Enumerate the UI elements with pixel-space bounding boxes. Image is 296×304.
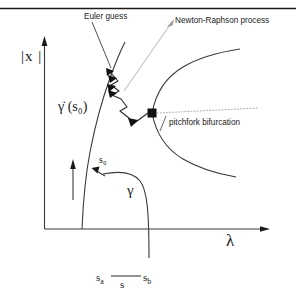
newton-raphson-leader-arrowhead (167, 19, 174, 27)
s-a-subscript: a (100, 277, 104, 286)
pitchfork-upper-branch (152, 49, 240, 113)
x-axis-label: λ (226, 232, 234, 249)
euler-guess-label: Euler guess (84, 13, 127, 21)
x-axis-arrowhead (260, 226, 270, 232)
pitchfork-bifurcation-diagram (0, 0, 296, 304)
tangent-direction-arrow-group (70, 159, 76, 200)
newton-raphson-path-group (106, 68, 148, 127)
axes-group (42, 36, 270, 232)
gamma-tangent-arc (103, 172, 149, 258)
y-axis-arrowhead (42, 36, 48, 46)
s0-label: s₀ (99, 155, 106, 165)
pitchfork-bifurcation-label: pitchfork bifurcation (169, 119, 240, 127)
gamma-branch-group (82, 42, 149, 258)
trivial-branch-dotted-line (157, 108, 258, 113)
bifurcation-point-marker (148, 109, 157, 118)
tangent-arrow-head (70, 159, 76, 169)
gamma-dot-s0-label: γ̇ (s₀) (58, 100, 87, 114)
s-mid-label: s (120, 279, 124, 290)
newton-raphson-zigzag (110, 72, 148, 124)
callout-leaders-group (92, 19, 174, 131)
s0-pointer-group (92, 167, 106, 177)
newton-raphson-label: Newton-Raphson process (175, 17, 269, 25)
euler-guess-leader-line (92, 22, 111, 68)
pitchfork-curves-group (148, 49, 259, 177)
y-axis-label: |x | (21, 49, 42, 64)
newton-iterate-marker-5 (128, 118, 138, 127)
pitchfork-leader-line (160, 116, 166, 131)
gamma-solution-curve (82, 42, 125, 229)
s-b-subscript: b (147, 277, 151, 286)
gamma-label: γ (127, 183, 134, 198)
s-b-label: sb (143, 272, 151, 285)
s-a-label: sa (96, 272, 104, 285)
newton-raphson-leader-line (124, 22, 172, 91)
